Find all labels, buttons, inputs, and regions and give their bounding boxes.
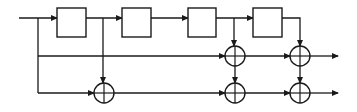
adder-icon (225, 46, 245, 66)
adder-icon (290, 83, 310, 103)
delay-block-4 (253, 8, 282, 37)
delay-block-3 (188, 8, 216, 37)
diagram-svg (0, 0, 357, 112)
adder-icon (225, 83, 245, 103)
delay-block-1 (57, 8, 86, 37)
delay-block-2 (122, 8, 151, 37)
adder-icon (94, 83, 114, 103)
adder-icon (290, 46, 310, 66)
tap-wire-4 (282, 18, 300, 46)
block-diagram (0, 0, 357, 112)
